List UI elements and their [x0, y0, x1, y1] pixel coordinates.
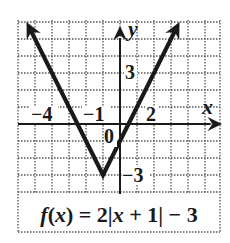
formula-x: x: [55, 202, 66, 227]
tick-labels: −4−123−30xy: [30, 16, 213, 186]
y-tick-label-neg3: −3: [122, 164, 143, 186]
formula-mid: ) = 2|: [66, 202, 113, 227]
x-axis-label: x: [201, 94, 213, 119]
x-tick-label-neg4: −4: [31, 103, 52, 125]
formula-x2: x: [113, 202, 124, 227]
formula-end: + 1| − 3: [124, 202, 198, 227]
formula-f: f: [40, 202, 47, 227]
formula-paren: (: [48, 202, 55, 227]
y-tick-label-3: 3: [125, 61, 135, 83]
function-formula: f(x) = 2|x + 1| − 3: [20, 202, 218, 228]
origin-label: 0: [104, 125, 114, 147]
y-axis-label: y: [125, 16, 138, 41]
x-tick-label-2: 2: [146, 103, 156, 125]
x-tick-label-neg1: −1: [83, 103, 104, 125]
